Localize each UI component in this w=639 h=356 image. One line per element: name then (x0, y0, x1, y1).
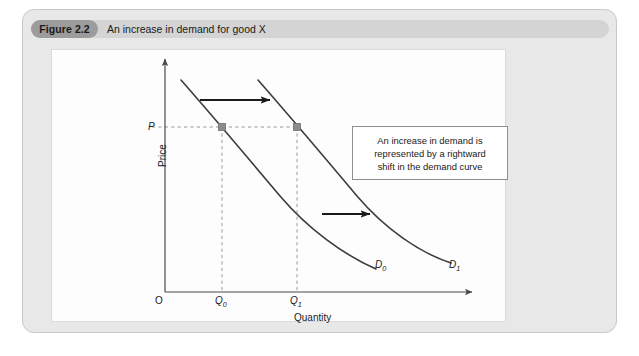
figure-number-label: Figure 2.2 (39, 23, 90, 35)
figure-page: Figure 2.2 An increase in demand for goo… (0, 0, 639, 356)
y-axis-title: Price (157, 126, 168, 186)
quantity0-tick-subscript: 0 (223, 300, 227, 309)
callout-line-2: represented by a rightward (374, 147, 486, 160)
callout-line-3: shift in the demand curve (378, 160, 483, 173)
quantity0-tick-letter: Q (215, 295, 223, 306)
quantity0-tick-label: Q0 (215, 295, 227, 309)
callout-line-1: An increase in demand is (377, 134, 482, 147)
annotation-callout: An increase in demand is represented by … (352, 126, 508, 180)
plot-canvas (51, 49, 506, 322)
origin-label: O (155, 295, 163, 306)
x-axis-title: Quantity (294, 312, 331, 323)
d1-subscript: 1 (456, 264, 460, 273)
d0-subscript: 0 (382, 264, 386, 273)
figure-container: Figure 2.2 An increase in demand for goo… (22, 9, 617, 333)
demand-curve-d1-label: D1 (449, 259, 460, 273)
quantity1-tick-label: Q1 (290, 295, 302, 309)
figure-number-pill: Figure 2.2 (31, 20, 98, 38)
demand-curve-d0-label: D0 (375, 259, 386, 273)
quantity1-tick-letter: Q (290, 295, 298, 306)
figure-title: An increase in demand for good X (107, 20, 266, 38)
price-tick-label: P (148, 121, 155, 132)
quantity1-tick-subscript: 1 (298, 300, 302, 309)
